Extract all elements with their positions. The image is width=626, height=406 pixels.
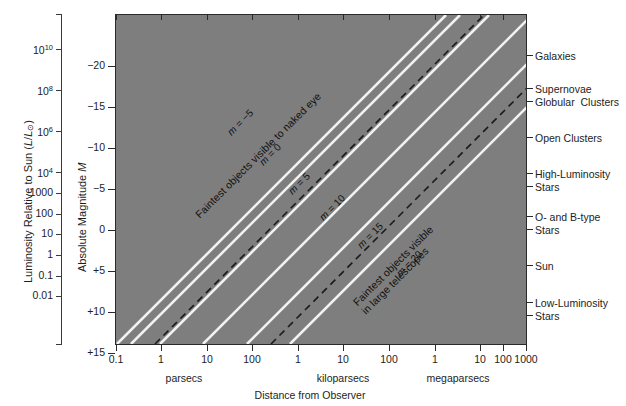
exponent: 10 (45, 43, 53, 52)
magnitude-line-m-5 (160, 15, 489, 344)
x-axis-tick (389, 345, 390, 351)
object-category-label-line: Stars (535, 181, 610, 194)
x-axis-tick-top (161, 14, 162, 20)
luminosity-tick (56, 214, 62, 215)
x-axis-tick-label: 10 (323, 353, 363, 365)
magnitude-tick (108, 189, 115, 190)
magnitude-axis-title-text: Absolute Magnitude M (76, 163, 88, 272)
x-axis-tick (435, 345, 436, 351)
exponent: 4 (49, 166, 53, 175)
magnitude-tick-label: −5 (93, 182, 105, 194)
x-axis-tick-top (503, 14, 504, 20)
x-axis-tick (526, 345, 527, 351)
x-axis-tick (480, 345, 481, 351)
magnitude-tick-label: −20 (87, 59, 105, 71)
object-category-label-line: Stars (535, 310, 608, 323)
x-axis-tick (207, 345, 208, 351)
x-axis-tick (343, 345, 344, 351)
luminosity-tick (56, 49, 62, 50)
luminosity-tick-label: 0.1 (38, 269, 53, 281)
object-category-label-line: Globular Clusters (535, 96, 619, 109)
object-category-tick (526, 101, 533, 102)
mantissa: 10 (37, 85, 49, 97)
x-axis-title: Distance from Observer (180, 389, 440, 401)
luminosity-tick-label: 1010 (33, 42, 53, 56)
mantissa: 10 (37, 167, 49, 179)
luminosity-tick-label: 108 (37, 83, 53, 97)
luminosity-tick (56, 234, 62, 235)
luminosity-tick (56, 255, 62, 256)
magnitude-tick-label: +10 (87, 305, 105, 317)
magnitude-tick-label: 0 (99, 223, 105, 235)
x-axis-tick-top (298, 14, 299, 20)
x-axis-tick-label: 1 (278, 353, 318, 365)
magnitude-tick (108, 148, 115, 149)
x-axis-tick-top (343, 14, 344, 20)
object-category-tick (526, 315, 533, 316)
object-category-tick (526, 186, 533, 187)
x-axis-tick-top (116, 14, 117, 20)
object-category-tick (526, 302, 533, 303)
plot-area: m = −5m = 0m = 5m = 10m = 15m = 20Fainte… (115, 14, 527, 345)
object-category-label-line: Galaxies (535, 50, 576, 63)
magnitude-tick-label: −15 (87, 100, 105, 112)
luminosity-tick (56, 90, 62, 91)
x-axis-tick (116, 345, 117, 351)
luminosity-tick (56, 276, 62, 277)
object-category-tick (526, 216, 533, 217)
x-axis-tick (298, 345, 299, 351)
object-category-tick (526, 173, 533, 174)
luminosity-tick (56, 172, 62, 173)
magnitude-tick-label: −10 (87, 141, 105, 153)
x-axis-tick-top (252, 14, 253, 20)
x-axis-tick-label: 10 (187, 353, 227, 365)
magnitude-tick (108, 230, 115, 231)
magnitude-distance-lines (116, 15, 526, 344)
luminosity-tick-label: 1 (47, 248, 53, 260)
luminosity-tick-label: 106 (37, 124, 53, 138)
object-category-label-line: Stars (535, 224, 600, 237)
luminosity-tick-label: 0.01 (33, 289, 53, 301)
luminosity-tick-label: 104 (37, 165, 53, 179)
object-category-label-line: Supernovae (535, 83, 619, 96)
object-category-tick (526, 88, 533, 89)
object-category-label: O- and B-typeStars (535, 211, 600, 236)
object-category-label-line: Open Clusters (535, 132, 602, 145)
object-category-label: Low-LuminosityStars (535, 297, 608, 322)
luminosity-tick (56, 193, 62, 194)
magnitude-tick (108, 66, 115, 67)
object-category-label: Open Clusters (535, 132, 602, 145)
x-axis-tick (161, 345, 162, 351)
x-axis-tick-top (207, 14, 208, 20)
magnitude-line-m-minus-5 (117, 15, 446, 344)
x-axis-tick (252, 345, 253, 351)
object-category-label-line: Sun (535, 260, 554, 273)
object-category-tick (526, 229, 533, 230)
mantissa: 10 (33, 44, 45, 56)
luminosity-tick-label: 100 (35, 207, 53, 219)
x-axis-tick-label: 100 (232, 353, 272, 365)
object-category-tick (526, 265, 533, 266)
x-axis-tick-label: 100 (369, 353, 409, 365)
mantissa: 10 (37, 126, 49, 138)
x-axis-tick-top (480, 14, 481, 20)
x-axis-unit-group-label: kiloparsecs (293, 372, 393, 384)
x-axis-tick-label: 1 (141, 353, 181, 365)
object-category-tick (526, 137, 533, 138)
magnitude-tick (108, 271, 115, 272)
luminosity-tick (56, 296, 62, 297)
object-category-label-line: O- and B-type (535, 211, 600, 224)
magnitude-tick-label: +5 (93, 264, 105, 276)
object-category-label: Galaxies (535, 50, 576, 63)
x-axis-unit-group-label: megaparsecs (408, 372, 508, 384)
object-category-label: High-LuminosityStars (535, 168, 610, 193)
object-category-tick (526, 55, 533, 56)
x-axis-tick-label: 0.1 (96, 353, 136, 365)
x-axis-tick-label: 1 (415, 353, 455, 365)
x-axis-tick-top (435, 14, 436, 20)
object-category-label-line: Low-Luminosity (535, 297, 608, 310)
luminosity-tick-label: 10 (41, 227, 53, 239)
figure-canvas: 101010810610410001001010.10.01 Luminosit… (0, 0, 626, 406)
luminosity-tick (56, 131, 62, 132)
x-axis-tick-label: 1000 (506, 353, 546, 365)
